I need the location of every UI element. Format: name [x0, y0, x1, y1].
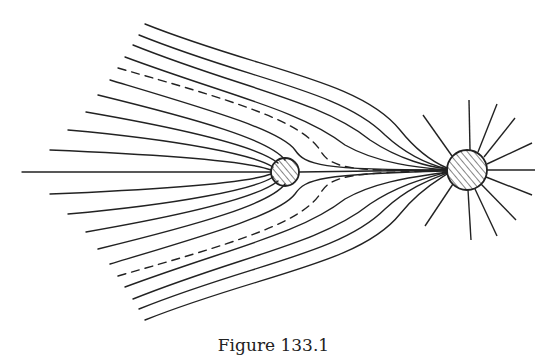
- small-charge: [271, 158, 299, 186]
- figure-caption: Figure 133.1: [0, 335, 547, 355]
- large-charge: [447, 150, 487, 190]
- field-lines: [22, 24, 447, 320]
